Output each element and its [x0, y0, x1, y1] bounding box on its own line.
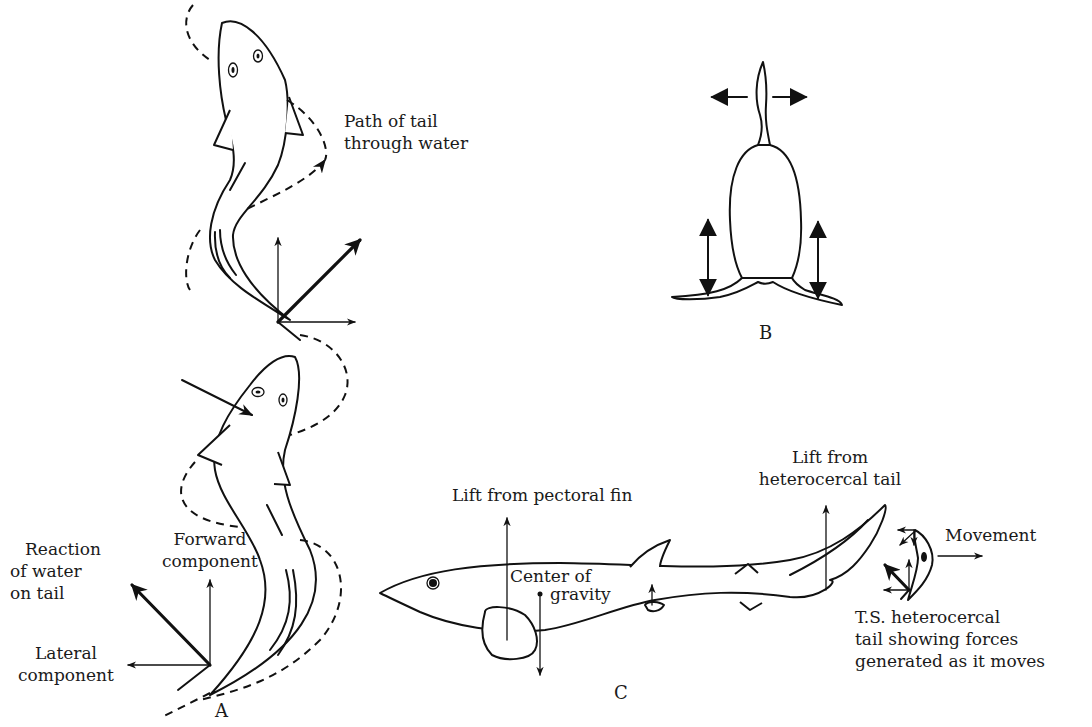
reaction-label-line-2: of water: [8, 560, 118, 582]
cog-label-line-2: gravity: [510, 585, 611, 603]
center-of-gravity-label: Center of gravity: [510, 567, 611, 603]
path-label-line-1: Path of tail: [344, 110, 468, 132]
panel-label-b: B: [759, 322, 772, 344]
lateral-label-line-2: component: [10, 664, 122, 686]
panel-label-a: A: [215, 700, 228, 722]
lateral-component-label: Lateral component: [10, 642, 122, 686]
ts-caption-line-3: generated as it moves: [855, 650, 1045, 672]
reaction-label-line-1: Reaction: [8, 538, 118, 560]
forward-label-line-1: Forward: [158, 528, 262, 550]
reaction-label-line-3: on tail: [8, 582, 118, 604]
panel-a-top-shark: [186, 5, 360, 340]
forward-label-line-2: component: [158, 550, 262, 572]
lift-from-pectoral-fin-label: Lift from pectoral fin: [452, 484, 632, 506]
panel-label-c: C: [614, 682, 628, 704]
ts-heterocercal-tail-caption: T.S. heterocercal tail showing forces ge…: [855, 606, 1045, 672]
panel-c-side-shark: [380, 505, 886, 675]
path-label-line-2: through water: [344, 132, 468, 154]
path-of-tail-label: Path of tail through water: [344, 110, 468, 154]
tail-lift-line-2: heterocercal tail: [750, 468, 910, 490]
lift-from-heterocercal-tail-label: Lift from heterocercal tail: [750, 446, 910, 490]
ts-caption-line-2: tail showing forces: [855, 628, 1045, 650]
panel-a-bottom-shark: [128, 335, 348, 718]
lateral-label-line-1: Lateral: [10, 642, 122, 664]
forward-component-label: Forward component: [158, 528, 262, 572]
panel-b-tail-cross-section: [672, 62, 842, 305]
ts-caption-line-1: T.S. heterocercal: [855, 606, 1045, 628]
cog-label-line-1: Center of: [510, 567, 611, 585]
movement-label: Movement: [945, 524, 1036, 546]
reaction-of-water-label: Reaction of water on tail: [8, 538, 118, 604]
tail-lift-line-1: Lift from: [750, 446, 910, 468]
